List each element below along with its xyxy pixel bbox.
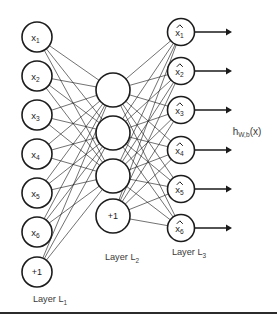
output-arrow	[195, 29, 232, 36]
output-arrow	[195, 225, 232, 232]
edge-hidden-to-output	[125, 159, 171, 204]
output-arrow-head-icon	[226, 107, 232, 114]
layer-label-hidden: Layer L2	[105, 252, 140, 263]
edge-input-to-hidden	[46, 189, 102, 260]
edge-hidden-to-output	[127, 186, 171, 219]
output-node-xhat6: x6	[168, 215, 195, 242]
edge-input-to-hidden	[51, 138, 96, 150]
layer-label-output: Layer L3	[172, 247, 207, 258]
edge-hidden-to-output	[130, 179, 168, 186]
hidden-node-2	[96, 116, 130, 150]
input-node-x4: x4	[22, 139, 52, 169]
input-node-x6: x6	[22, 217, 52, 247]
edge-input-to-hidden	[52, 180, 97, 190]
edge-input-to-hidden	[49, 46, 99, 81]
edge-input-to-hidden	[49, 144, 100, 184]
output-arrow-head-icon	[226, 147, 232, 154]
edge-input-to-hidden	[49, 85, 99, 123]
hypothesis-label: hW,b(x)	[233, 126, 262, 138]
input-node-x5: x5	[22, 178, 52, 208]
edge-hidden-to-output	[126, 41, 171, 79]
output-arrow	[195, 186, 232, 193]
edge-hidden-to-output	[130, 219, 168, 226]
edge-input-to-hidden	[52, 118, 97, 129]
hidden-node-3-circle	[96, 159, 130, 193]
edge-input-to-hidden	[49, 124, 100, 165]
hidden-node-2-circle	[96, 116, 130, 150]
input-bias-node-label: +1	[32, 267, 42, 277]
edge-input-to-hidden	[44, 50, 105, 161]
input-node-x3: x3	[22, 100, 52, 130]
hidden-node-1	[96, 73, 130, 107]
output-node-xhat4: x4	[168, 137, 195, 164]
output-arrow	[195, 147, 232, 154]
output-arrow-head-icon	[226, 29, 232, 36]
hidden-bias-node-label: +1	[108, 211, 118, 221]
edge-input-to-hidden	[46, 146, 103, 220]
network-canvas: x1x2x3x4x5x6+1+1x1x2x3x4x5x6 Layer L1Lay…	[0, 0, 277, 321]
hidden-node-1-circle	[96, 73, 130, 107]
edge-input-to-hidden	[51, 95, 97, 110]
output-arrow	[195, 68, 232, 75]
hidden-bias-node: +1	[96, 199, 130, 233]
output-node-xhat3: x3	[168, 97, 195, 124]
edge-hidden-to-output	[120, 44, 175, 160]
output-arrow	[195, 107, 232, 114]
output-arrows	[195, 29, 232, 232]
input-node-x1: x1	[22, 22, 52, 52]
output-arrow-head-icon	[226, 68, 232, 75]
output-arrow-head-icon	[226, 225, 232, 232]
edge-hidden-to-output	[125, 119, 171, 164]
edge-input-to-hidden	[52, 79, 97, 87]
output-node-xhat5: x5	[168, 176, 195, 203]
layer-label-input: Layer L1	[33, 294, 68, 305]
input-node-x2: x2	[22, 61, 52, 91]
neural-network-diagram: x1x2x3x4x5x6+1+1x1x2x3x4x5x6 Layer L1Lay…	[0, 0, 277, 321]
output-node-xhat2: x2	[168, 58, 195, 85]
hidden-node-3	[96, 159, 130, 193]
output-arrow-head-icon	[226, 186, 232, 193]
output-node-xhat1: x1	[168, 19, 195, 46]
input-bias-node: +1	[22, 257, 52, 287]
edge-hidden-to-output	[122, 43, 173, 119]
